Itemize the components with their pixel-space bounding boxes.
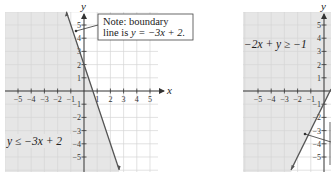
tick-label: −1	[312, 100, 321, 109]
tick-label: 5	[77, 21, 81, 30]
tick-label: −4	[72, 140, 81, 149]
y-axis-label: y	[320, 0, 326, 12]
note-pointer-dot	[75, 30, 78, 33]
figure: −5 −4 −3 −2 −1 1 2 3 4 5 5 4 3 2 1 −1 −2…	[0, 0, 331, 182]
tick-label: 5	[317, 21, 321, 30]
graph-1: −5 −4 −3 −2 −1 1 2 3 4 5 5 4 3 2 1 −1 −2…	[5, 0, 193, 172]
tick-label: −2	[293, 95, 302, 104]
tick-label: −3	[72, 127, 81, 136]
tick-label: −5	[72, 153, 81, 162]
note-text-line2: line is y = −3x + 2.	[103, 27, 185, 38]
tick-label: 2	[77, 61, 81, 70]
tick-label: 2	[108, 95, 112, 104]
tick-label: −5	[312, 153, 321, 162]
note-pointer-dot	[304, 133, 307, 136]
tick-label: 1	[77, 74, 81, 83]
tick-label: 3	[122, 95, 126, 104]
inequality-label: y ≤ −3x + 2	[6, 135, 62, 148]
note-equation: y = −3x + 2.	[130, 27, 185, 38]
tick-label: −3	[312, 127, 321, 136]
tick-label: −3	[40, 95, 49, 104]
tick-label: −4	[312, 140, 321, 149]
tick-label: −1	[72, 100, 81, 109]
tick-label: 5	[148, 95, 152, 104]
tick-label: 1	[317, 74, 321, 83]
tick-label: −4	[267, 95, 276, 104]
tick-label: −5	[14, 95, 23, 104]
note-text-line1: Note: boundary	[103, 16, 169, 27]
x-axis-label: x	[166, 84, 172, 96]
tick-label: 4	[317, 34, 321, 43]
inequality-label: −2x + y ≥ −1	[244, 38, 307, 51]
graph-2: −5 −4 −3 −2 −1 5 4 3 2 1 −1 −2 −3 −4 −5 …	[243, 0, 331, 172]
tick-label: 2	[317, 61, 321, 70]
tick-label: 3	[317, 47, 321, 56]
tick-label: −5	[254, 95, 263, 104]
tick-label: −2	[72, 113, 81, 122]
tick-label: 4	[77, 34, 81, 43]
note-prefix: line is	[103, 27, 131, 38]
y-axis-label: y	[80, 0, 86, 12]
tick-label: −4	[27, 95, 36, 104]
tick-label: 4	[135, 95, 139, 104]
tick-label: −3	[280, 95, 289, 104]
tick-label: −2	[53, 95, 62, 104]
